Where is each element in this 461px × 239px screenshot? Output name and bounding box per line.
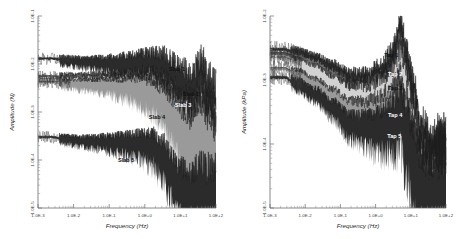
series-annotation-label: Tap 4 [388,112,403,118]
chart-panel-left: 1.0E-11.0E-21.0E-31.0E-41.0E-5 1.0E-31.0… [0,0,231,239]
series-annotation-label: Tap 3 [388,85,402,91]
right-y-axis-title: Amplitude (kPa) [240,90,247,135]
right-plot-area [270,16,446,208]
figure-two-panel-spectra: 1.0E-11.0E-21.0E-31.0E-41.0E-5 1.0E-31.0… [0,0,461,239]
x-tick-label: 1.0E-1 [334,213,348,218]
x-tick-label: 1.0E+2 [439,213,454,218]
y-tick-label: 1.0E-2 [262,9,267,23]
right-y-tick-labels: 1.0E-21.0E-31.0E-41.0E-5 [262,9,267,215]
x-tick-label: 1.0E+0 [368,213,383,218]
x-tick-label: 1.0E-3 [263,213,277,218]
left-x-axis-title: Frequency (Hz) [106,222,149,229]
x-tick-label: 1.0E+0 [138,213,153,218]
y-tick-label: 1.0E-3 [262,73,267,87]
right-x-tick-labels: 1.0E-31.0E-21.0E-11.0E+01.0E+11.0E+2 [263,213,453,218]
y-tick-label: 1.0E-4 [262,137,267,151]
y-tick-label: 1.0E-4 [30,153,35,167]
left-plot-area [38,16,216,208]
x-tick-label: 1.0E-1 [103,213,117,218]
x-tick-label: 1.0E+2 [209,213,224,218]
x-tick-label: 1.0E+1 [404,213,419,218]
y-tick-label: 1.0E-2 [30,57,35,71]
series-annotation-label: Tap 1 [384,52,398,58]
chart-panel-right: 1.0E-21.0E-31.0E-41.0E-5 1.0E-31.0E-21.0… [230,0,461,239]
x-tick-label: 1.0E-2 [67,213,81,218]
y-tick-label: 1.0E-3 [30,105,35,119]
series-annotation-label: Slab 2 [183,91,199,97]
left-x-tick-labels: 1.0E-31.0E-21.0E-11.0E+01.0E+11.0E+2 [31,213,223,218]
series-annotation-label: Tap 5 [387,133,401,139]
x-tick-label: 1.0E-3 [31,213,45,218]
left-y-tick-labels: 1.0E-11.0E-21.0E-31.0E-41.0E-5 [30,9,35,215]
right-plot-svg: 1.0E-21.0E-31.0E-41.0E-5 1.0E-31.0E-21.0… [230,0,461,239]
series-annotation-label: Slab 4 [149,114,166,120]
y-tick-label: 1.0E-1 [30,9,35,23]
left-y-axis-title: Amplitude (N) [8,93,15,132]
series-annotation-label: Slab 1 [169,66,185,72]
series-annotation-label: Slab 5 [118,157,134,163]
x-tick-label: 1.0E-2 [299,213,313,218]
right-x-axis-title: Frequency (Hz) [337,222,380,229]
series-annotation-label: Tap 2 [388,71,402,77]
series-annotation-label: Slab 3 [175,102,191,108]
left-plot-svg: 1.0E-11.0E-21.0E-31.0E-41.0E-5 1.0E-31.0… [0,0,231,239]
x-tick-label: 1.0E+1 [173,213,188,218]
